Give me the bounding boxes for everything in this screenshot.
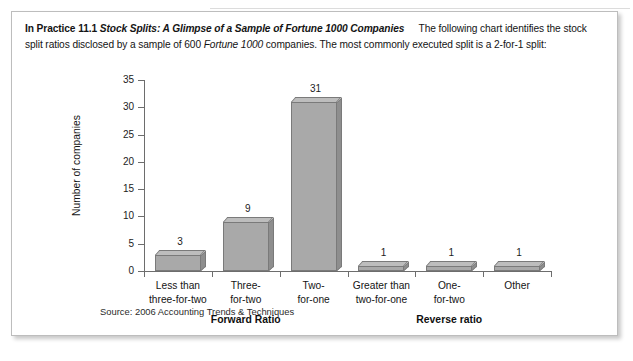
- bar-value-label: 31: [286, 83, 346, 94]
- y-axis-tick-label: 30: [90, 102, 134, 112]
- y-axis-tick: [138, 107, 145, 108]
- intro-body-italic: Fortune 1000: [204, 39, 263, 50]
- intro-body-part-2: companies. The most commonly executed sp…: [263, 39, 546, 50]
- y-axis-tick-label-text: 35: [94, 75, 134, 85]
- bar-value-label: 3: [150, 236, 210, 247]
- intro-title: Stock Splits: A Glimpse of a Sample of F…: [100, 23, 405, 34]
- y-axis-title: Number of companies: [71, 86, 82, 246]
- y-axis-tick: [138, 162, 145, 163]
- y-axis-tick-label-text: 5: [94, 239, 134, 249]
- x-axis-tick: [280, 271, 281, 277]
- scan-artifact-strip: [0, 0, 633, 10]
- bar-front-face: [291, 102, 337, 271]
- bar-chart: Number of companies 05101520253035 39311…: [12, 64, 619, 337]
- y-axis-tick-label: 20: [90, 157, 134, 167]
- x-axis-category-line: Other: [474, 279, 560, 293]
- bar-top-face: [291, 97, 342, 102]
- bar-side-face: [337, 97, 342, 271]
- x-axis-tick: [483, 271, 484, 277]
- y-axis-tick-label-text: 20: [94, 157, 134, 167]
- y-axis-tick-label: 15: [90, 184, 134, 194]
- bar: [358, 261, 404, 271]
- source-note: Source: 2006 Accounting Trends & Techniq…: [100, 306, 294, 317]
- bar: [426, 261, 472, 271]
- y-axis-tick-label: 35: [90, 75, 134, 85]
- bar-front-face: [358, 266, 404, 271]
- y-axis-tick: [138, 189, 145, 190]
- bar-side-face: [269, 217, 274, 271]
- y-axis-tick-label-text: 15: [94, 184, 134, 194]
- x-axis-tick: [551, 271, 552, 277]
- y-axis-tick: [138, 135, 145, 136]
- y-axis-tick: [138, 80, 145, 81]
- y-axis-tick-label: 5: [90, 239, 134, 249]
- bar-value-label: 1: [489, 247, 549, 258]
- x-axis-group-label: Reverse ratio: [349, 314, 549, 325]
- y-axis-tick-label: 0: [90, 266, 134, 276]
- bar-value-label: 9: [218, 203, 278, 214]
- y-axis-tick: [138, 216, 145, 217]
- x-axis-category-label: Other: [474, 279, 560, 293]
- x-axis-tick: [212, 271, 213, 277]
- bar: [155, 250, 201, 271]
- y-axis-tick-label: 10: [90, 211, 134, 221]
- bar-front-face: [155, 255, 201, 271]
- y-axis-tick-label: 25: [90, 130, 134, 140]
- in-practice-panel: In Practice 11.1 Stock Splits: A Glimpse…: [11, 11, 618, 336]
- bar-value-label: 1: [353, 247, 413, 258]
- bar: [494, 261, 540, 271]
- x-axis-tick: [415, 271, 416, 277]
- bar-value-label: 1: [421, 247, 481, 258]
- bar-front-face: [494, 266, 540, 271]
- x-axis-tick: [144, 271, 145, 277]
- bar-top-face: [494, 261, 545, 266]
- bar-top-face: [358, 261, 409, 266]
- x-axis-category-line: for-two: [406, 293, 492, 307]
- bar: [223, 217, 269, 271]
- bar: [291, 97, 337, 271]
- bar-front-face: [223, 222, 269, 271]
- bar-top-face: [223, 217, 274, 222]
- y-axis-tick-label-text: 25: [94, 130, 134, 140]
- intro-label: In Practice 11.1: [25, 23, 97, 34]
- intro-paragraph: In Practice 11.1 Stock Splits: A Glimpse…: [25, 21, 607, 53]
- bar-top-face: [155, 250, 206, 255]
- y-axis-tick: [138, 244, 145, 245]
- y-axis-tick-label-text: 30: [94, 102, 134, 112]
- y-axis-tick-label-text: 0: [94, 266, 134, 276]
- y-axis-tick-label-text: 10: [94, 211, 134, 221]
- x-axis-tick: [348, 271, 349, 277]
- bar-front-face: [426, 266, 472, 271]
- bar-top-face: [426, 261, 477, 266]
